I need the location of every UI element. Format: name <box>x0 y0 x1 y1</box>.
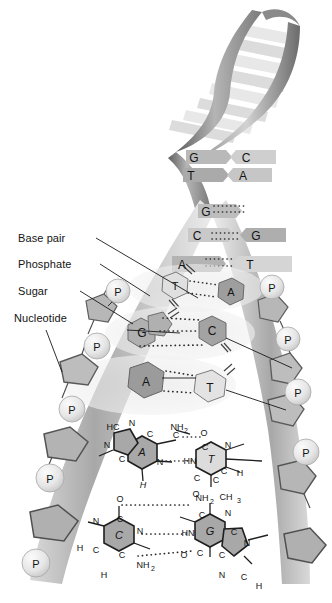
atom-n1: N <box>129 418 136 428</box>
atom-c1: C <box>147 429 154 439</box>
atom-g-hn: HN <box>182 528 195 538</box>
atom-g-n3: N <box>219 570 226 580</box>
atom-t-c1: C <box>202 442 209 452</box>
phosphate-label-r3: P <box>294 387 301 399</box>
atom-t-ch3-sub: 3 <box>237 497 241 504</box>
atom-c-c2: C <box>93 545 100 555</box>
atom-t-ch3: CH <box>220 492 233 502</box>
label-sugar: Sugar <box>18 285 48 297</box>
atom-t-o1: O <box>200 428 207 438</box>
atom-hc: HC <box>107 422 120 432</box>
atom-nh2: NH <box>171 422 184 432</box>
diagram-canvas: G C T A G C G A T T A G C A T P P P P P … <box>0 0 332 603</box>
label-base-pair: Base pair <box>18 232 65 244</box>
atom-g-h: H <box>256 581 263 591</box>
atom-t-n1: N <box>225 440 232 450</box>
ladder-base-a2: A <box>142 375 150 389</box>
phosphate-label-l2: P <box>93 341 100 353</box>
atom-g-c2: C <box>231 527 238 537</box>
atom-t-c2: C <box>194 473 201 483</box>
helix-top-flick <box>262 9 300 26</box>
label-nucleotide: Nucleotide <box>14 312 67 324</box>
phosphate-label-l3: P <box>68 404 75 416</box>
helix-base-c2: C <box>193 229 202 243</box>
atom-c-c3: C <box>119 550 126 560</box>
atom-g-nh2: NH <box>196 493 209 503</box>
atom-c-nh2-sub: 2 <box>151 565 155 572</box>
atom-c-n1: N <box>93 516 100 526</box>
ladder-base-c: C <box>208 324 217 338</box>
atom-c-h2: H <box>101 570 108 580</box>
ladder-base-g: G <box>137 326 146 340</box>
atom-c-nh2: NH <box>137 560 150 570</box>
helix-base-g3: G <box>251 229 260 243</box>
atom-g-n1: N <box>225 508 232 518</box>
atom-t-h: H <box>237 468 244 478</box>
molecule-base-c: C <box>115 529 123 541</box>
helix-base-g1: G <box>189 151 198 165</box>
atom-g-nh2-sub: 2 <box>210 498 214 505</box>
label-phosphate: Phosphate <box>18 258 72 270</box>
helix-base-a1: A <box>239 169 247 183</box>
molecule-base-g: G <box>206 525 215 537</box>
ladder-base-t: T <box>172 280 179 292</box>
basepair-t-a <box>128 264 264 312</box>
helix-base-c1: C <box>242 151 251 165</box>
molecule-base-a: A <box>137 446 145 458</box>
atom-c-n2: N <box>137 526 144 536</box>
atom-t-c3: C <box>213 475 220 485</box>
helix-base-t1: T <box>187 169 195 183</box>
atom-t-ch: C <box>221 466 228 476</box>
atom-g-c3: C <box>197 548 204 558</box>
atom-g-ch: C <box>241 572 248 582</box>
phosphate-label-r4: P <box>302 447 309 459</box>
helix-base-g2: G <box>201 205 210 219</box>
dna-structure-diagram: G C T A G C G A T T A G C A T P P P P P … <box>0 0 332 603</box>
atom-t-hn: HN <box>184 456 197 466</box>
phosphate-label-l5: P <box>32 558 39 570</box>
phosphate-label-r1: P <box>268 282 275 294</box>
phosphate-label-r2: P <box>284 334 291 346</box>
phosphate-label-l1: P <box>114 286 121 298</box>
ladder-base-a1: A <box>227 286 235 298</box>
helix-base-a2: A <box>178 258 186 272</box>
atom-nh2-sub: 2 <box>184 427 188 434</box>
atom-g-n2: N <box>244 538 251 548</box>
atom-c-c1: C <box>117 514 124 524</box>
leader-nucleotide <box>46 330 62 372</box>
atom-n4: N <box>157 457 164 467</box>
atom-c-h1: H <box>77 543 84 553</box>
atom-n2: N <box>104 440 111 450</box>
helix-base-t2: T <box>246 258 254 272</box>
atom-g-c4: C <box>219 550 226 560</box>
atom-c-o1: O <box>116 494 123 504</box>
atom-g-c1: C <box>199 510 206 520</box>
atom-n3: C <box>119 454 126 464</box>
atom-g-o1: O <box>180 550 187 560</box>
atom-h: H <box>140 480 147 490</box>
ladder-base-t2: T <box>206 381 214 395</box>
phosphate-label-l4: P <box>46 473 53 485</box>
